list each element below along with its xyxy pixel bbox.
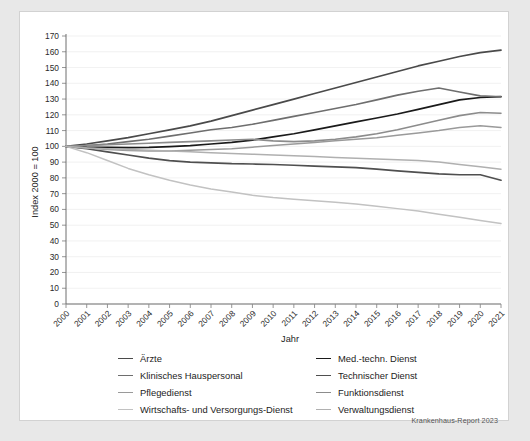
legend-item[interactable]: Med.-techn. Dienst	[316, 350, 506, 367]
legend-item[interactable]: Klinisches Hauspersonal	[118, 367, 318, 384]
x-tick-label: 2020	[465, 308, 485, 328]
y-tick-label: 70	[50, 189, 60, 199]
legend-swatch-line-icon	[316, 375, 331, 376]
x-tick-label: 2000	[51, 308, 71, 328]
legend-swatch-line-icon	[316, 358, 331, 359]
y-tick-label: 80	[50, 173, 60, 183]
y-tick-label: 60	[50, 204, 60, 214]
x-tick-label: 2017	[403, 308, 423, 328]
axis-lines	[62, 34, 501, 308]
y-tick-label: 130	[45, 94, 59, 104]
legend-column-left: ÄrzteKlinisches HauspersonalPflegedienst…	[118, 350, 318, 418]
series-lines	[66, 50, 501, 223]
legend-label: Verwaltungsdienst	[338, 404, 414, 415]
x-tick-label: 2016	[383, 308, 403, 328]
legend-swatch-line-icon	[118, 358, 133, 359]
legend-label: Med.-techn. Dienst	[338, 353, 417, 364]
legend-swatch-line-icon	[316, 392, 331, 393]
x-axis-title: Jahr	[281, 334, 299, 344]
x-tick-label: 2009	[238, 308, 258, 328]
legend-label: Funktionsdienst	[338, 387, 404, 398]
y-tick-label: 0	[54, 299, 59, 309]
x-tick-label: 2014	[341, 308, 361, 328]
x-axis-tick-labels: 2000200120022003200420052006200720082009…	[51, 308, 506, 328]
legend-swatch-line-icon	[118, 409, 133, 410]
legend-label: Wirtschafts- und Versorgungs-Dienst	[140, 404, 293, 415]
x-tick-label: 2008	[217, 308, 237, 328]
legend-item[interactable]: Pflegedienst	[118, 384, 318, 401]
series-line	[66, 146, 501, 180]
y-tick-label: 10	[50, 283, 60, 293]
y-tick-label: 150	[45, 63, 59, 73]
x-tick-label: 2013	[320, 308, 340, 328]
y-tick-label: 30	[50, 252, 60, 262]
x-tick-label: 2012	[300, 308, 320, 328]
legend-label: Ärzte	[140, 353, 162, 364]
y-tick-label: 110	[46, 126, 60, 136]
figure-panel: 0102030405060708090100110120130140150160…	[19, 11, 509, 421]
x-tick-label: 2002	[93, 308, 113, 328]
x-tick-label: 2001	[72, 308, 92, 328]
legend-label: Technischer Dienst	[338, 370, 417, 381]
y-tick-label: 120	[45, 110, 59, 120]
legend-item[interactable]: Ärzte	[118, 350, 318, 367]
legend-label: Klinisches Hauspersonal	[140, 370, 243, 381]
line-chart: 0102030405060708090100110120130140150160…	[20, 12, 510, 350]
series-line	[66, 146, 501, 169]
legend-swatch-line-icon	[118, 392, 133, 393]
y-axis-tick-labels: 0102030405060708090100110120130140150160…	[45, 31, 59, 309]
x-tick-label: 2003	[113, 308, 133, 328]
y-tick-label: 20	[50, 267, 60, 277]
x-tick-label: 2010	[258, 308, 278, 328]
legend-column-right: Med.-techn. DienstTechnischer DienstFunk…	[316, 350, 506, 418]
legend-item[interactable]: Wirtschafts- und Versorgungs-Dienst	[118, 401, 318, 418]
y-tick-label: 100	[45, 141, 59, 151]
legend-swatch-line-icon	[118, 375, 133, 376]
y-tick-label: 50	[50, 220, 60, 230]
legend-item[interactable]: Funktionsdienst	[316, 384, 506, 401]
x-tick-label: 2019	[445, 308, 465, 328]
series-line	[66, 146, 501, 223]
x-tick-label: 2011	[279, 308, 299, 328]
legend-item[interactable]: Technischer Dienst	[316, 367, 506, 384]
y-tick-label: 40	[50, 236, 60, 246]
x-tick-label: 2007	[196, 308, 216, 328]
y-tick-label: 140	[45, 78, 59, 88]
y-axis-title: Index 2000 = 100	[30, 146, 40, 217]
series-line	[66, 50, 501, 146]
y-tick-label: 170	[45, 31, 59, 41]
legend-label: Pflegedienst	[140, 387, 192, 398]
x-tick-label: 2006	[175, 308, 195, 328]
x-tick-label: 2018	[424, 308, 444, 328]
source-credit: Krankenhaus-Report 2023	[411, 416, 498, 425]
x-tick-label: 2005	[155, 308, 175, 328]
x-tick-label: 2004	[134, 308, 154, 328]
x-tick-label: 2015	[362, 308, 382, 328]
legend-swatch-line-icon	[316, 409, 331, 410]
y-tick-label: 160	[45, 47, 59, 57]
x-tick-label: 2021	[486, 308, 506, 328]
chart-legend: ÄrzteKlinisches HauspersonalPflegedienst…	[20, 350, 510, 422]
y-tick-label: 90	[50, 157, 60, 167]
series-line	[66, 97, 501, 148]
